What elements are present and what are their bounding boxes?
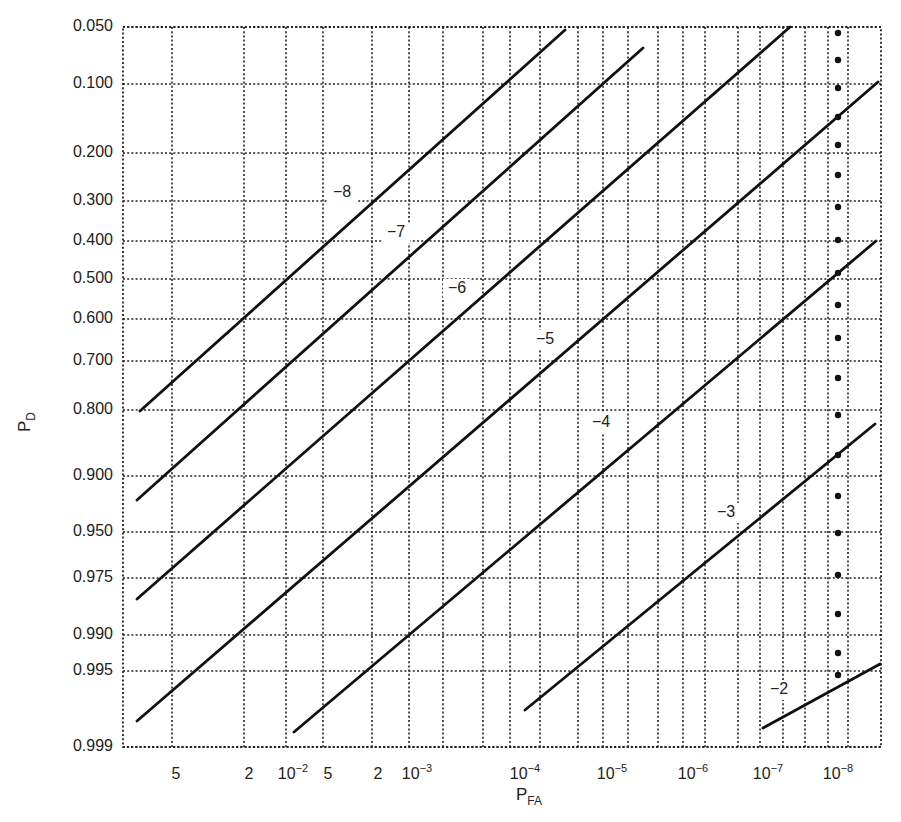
marker-dot	[835, 237, 841, 243]
x-tick-label: 10−6	[678, 762, 708, 782]
marker-dot	[835, 672, 841, 678]
y-tick-label: 0.050	[73, 17, 113, 34]
marker-dot	[835, 493, 841, 499]
roc-curve	[137, 48, 643, 500]
y-tick-label: 0.999	[73, 737, 113, 754]
y-tick-label: 0.100	[73, 74, 113, 91]
marker-dot	[835, 412, 841, 418]
marker-dot	[835, 172, 841, 178]
y-tick-label: 0.975	[73, 568, 113, 585]
x-tick-label: 10−8	[823, 762, 853, 782]
x-tick-label: 2	[245, 765, 254, 782]
y-tick-label: 0.300	[73, 191, 113, 208]
marker-dot	[835, 611, 841, 617]
x-tick-label: 5	[172, 765, 181, 782]
y-tick-label: 0.400	[73, 231, 113, 248]
roc-curve	[137, 27, 790, 599]
vertical-gridlines	[172, 27, 848, 747]
marker-dot	[835, 572, 841, 578]
marker-dot	[835, 650, 841, 656]
x-tick-label: 10−7	[753, 762, 783, 782]
y-tick-label: 0.950	[73, 522, 113, 539]
y-tick-label: 0.200	[73, 143, 113, 160]
y-tick-label: 0.995	[73, 661, 113, 678]
curve-labels: −8−7−6−5−4−3−2	[328, 183, 793, 700]
roc-curve	[140, 30, 565, 411]
roc-chart: 0.0500.1000.2000.3000.4000.5000.6000.700…	[0, 0, 901, 822]
marker-dot	[835, 302, 841, 308]
x-tick-label: 10−5	[597, 762, 627, 782]
roc-curve	[294, 241, 876, 732]
horizontal-gridlines	[123, 27, 881, 747]
y-tick-label: 0.990	[73, 625, 113, 642]
marker-dots-column	[835, 30, 841, 678]
y-axis-label: PD	[15, 412, 38, 432]
roc-curve	[525, 424, 875, 710]
marker-dot	[835, 142, 841, 148]
marker-dot	[835, 530, 841, 536]
marker-dot	[835, 335, 841, 341]
x-tick-label: 10−3	[402, 762, 432, 782]
y-tick-label: 0.900	[73, 466, 113, 483]
marker-dot	[835, 375, 841, 381]
x-tick-label: 5	[324, 765, 333, 782]
x-tick-label: 10−2	[278, 762, 308, 782]
curve-label: −2	[770, 680, 788, 697]
marker-dot	[835, 204, 841, 210]
curve-label: −6	[448, 279, 466, 296]
y-tick-label: 0.500	[73, 269, 113, 286]
y-tick-label: 0.800	[73, 400, 113, 417]
snr-curves	[137, 27, 880, 732]
x-tick-label: 10−4	[510, 762, 540, 782]
x-axis-label: PFA	[516, 785, 542, 808]
marker-dot	[835, 57, 841, 63]
marker-dot	[835, 30, 841, 36]
y-tick-label: 0.700	[73, 351, 113, 368]
curve-label: −7	[387, 223, 405, 240]
marker-dot	[835, 85, 841, 91]
curve-label: −3	[717, 503, 735, 520]
x-axis-tick-labels: 5210−25210−310−410−510−610−710−8	[172, 762, 854, 782]
y-axis-tick-labels: 0.0500.1000.2000.3000.4000.5000.6000.700…	[73, 17, 113, 754]
curve-label: −4	[592, 413, 610, 430]
curve-label: −5	[536, 330, 554, 347]
plot-frame	[123, 27, 881, 747]
y-tick-label: 0.600	[73, 309, 113, 326]
curve-label: −8	[333, 183, 351, 200]
x-tick-label: 2	[374, 765, 383, 782]
